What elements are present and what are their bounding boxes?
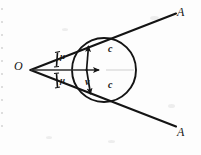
angle-tick-lower-bottom	[55, 87, 60, 88]
velocity-label-v: v	[85, 77, 89, 87]
diagram-svg	[0, 0, 201, 155]
angle-arc-upper	[57, 53, 58, 67]
speed-label-c-top: c	[108, 44, 112, 54]
tangent-ray-upper	[31, 14, 177, 71]
angle-tick-lower-top	[54, 73, 59, 74]
wave-vector-upper	[87, 46, 89, 71]
angle-label-mu-bottom: μ	[60, 76, 65, 85]
speed-label-c-bottom: c	[108, 80, 112, 90]
ray-label-a-top: A	[177, 6, 184, 18]
angle-arc-lower	[57, 74, 58, 88]
tangent-ray-lower	[31, 70, 177, 127]
angle-tick-upper-bottom	[54, 67, 59, 68]
vertex-label-o: O	[14, 60, 23, 72]
ray-label-a-bottom: A	[177, 126, 184, 138]
angle-label-mu-top: μ	[60, 52, 65, 61]
figure-container: O A A μ μ v c c	[0, 0, 201, 155]
